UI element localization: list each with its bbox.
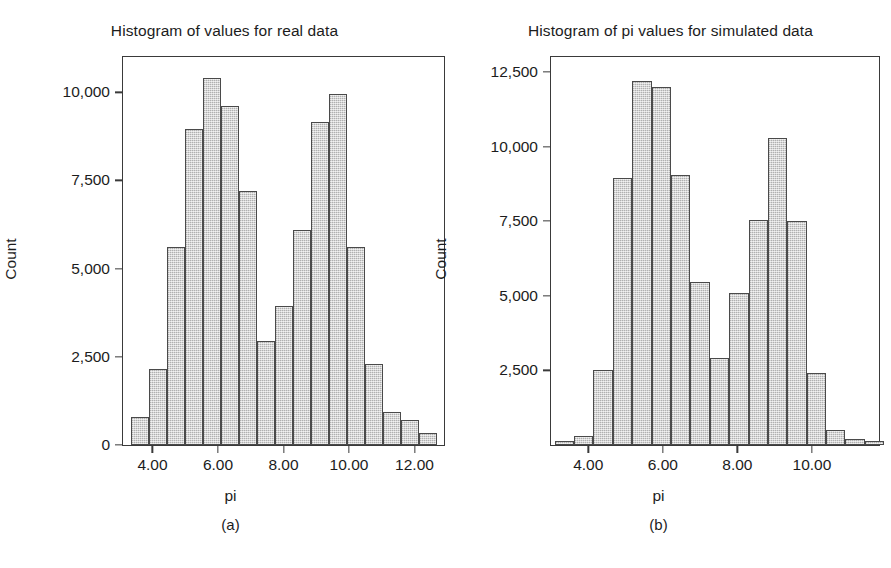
x-tick-mark [152, 445, 153, 453]
x-tick-label: 10.00 [330, 456, 369, 474]
y-axis-label-b: Count [432, 238, 450, 279]
histogram-bar [652, 87, 671, 445]
x-tick-label: 12.00 [395, 456, 434, 474]
figure-two-histograms: Histogram of values for real data Count … [0, 0, 891, 568]
y-tick-mark [115, 92, 122, 93]
y-tick-label: 2,500 [499, 361, 538, 379]
histogram-bars-b [551, 57, 879, 445]
histogram-bar [401, 420, 419, 445]
histogram-bar [826, 430, 845, 445]
x-tick-label: 6.00 [203, 456, 233, 474]
panel-caption-b: (b) [436, 516, 881, 533]
histogram-bar [185, 129, 203, 445]
panel-a: Histogram of values for real data Count … [0, 0, 445, 568]
histogram-bar [257, 341, 275, 445]
histogram-bar [768, 138, 787, 445]
plot-area-b [550, 56, 880, 446]
histogram-bar [807, 373, 826, 445]
y-tick-label: 5,000 [499, 287, 538, 305]
x-tick-mark [588, 445, 589, 453]
x-tick-mark [414, 445, 415, 453]
histogram-bar [690, 282, 709, 445]
y-axis-label-a: Count [2, 238, 20, 279]
chart-title-b: Histogram of pi values for simulated dat… [448, 22, 891, 40]
x-tick-label: 4.00 [573, 456, 603, 474]
histogram-bar [845, 439, 864, 445]
histogram-bar [293, 230, 311, 445]
y-tick-mark [115, 180, 122, 181]
y-tick-label: 2,500 [71, 348, 110, 366]
x-tick-mark [217, 445, 218, 453]
histogram-bars-a [123, 57, 444, 445]
histogram-bar [593, 370, 612, 445]
histogram-bar [865, 441, 884, 445]
x-tick-label: 8.00 [722, 456, 752, 474]
y-tick-mark [543, 370, 550, 371]
histogram-bar [239, 191, 257, 445]
histogram-bar [329, 94, 347, 445]
y-tick-mark [115, 356, 122, 357]
y-tick-label: 10,000 [63, 83, 110, 101]
y-tick-mark [115, 444, 122, 445]
x-axis-label-b: pi [436, 487, 881, 505]
y-tick-label: 7,500 [71, 171, 110, 189]
x-tick-mark [811, 445, 812, 453]
x-tick-mark [283, 445, 284, 453]
histogram-bar [311, 122, 329, 445]
histogram-bar [167, 247, 185, 445]
y-tick-mark [115, 268, 122, 269]
histogram-bar [729, 293, 748, 445]
histogram-bar [632, 81, 651, 445]
histogram-bar [419, 433, 437, 445]
x-tick-mark [348, 445, 349, 453]
x-tick-label: 6.00 [648, 456, 678, 474]
y-tick-label: 7,500 [499, 212, 538, 230]
x-tick-mark [737, 445, 738, 453]
y-tick-mark [543, 146, 550, 147]
histogram-bar [710, 358, 729, 445]
histogram-bar [365, 364, 383, 445]
chart-title-a: Histogram of values for real data [2, 22, 447, 40]
x-tick-label: 4.00 [137, 456, 167, 474]
y-tick-mark [543, 295, 550, 296]
panel-caption-a: (a) [8, 516, 453, 533]
panel-b: Histogram of pi values for simulated dat… [446, 0, 891, 568]
histogram-bar [275, 306, 293, 445]
histogram-bar [574, 436, 593, 445]
histogram-bar [383, 412, 401, 446]
histogram-bar [221, 106, 239, 445]
histogram-bar [149, 369, 167, 445]
histogram-bar [787, 221, 806, 445]
histogram-bar [749, 220, 768, 445]
histogram-bar [203, 78, 221, 445]
x-axis-label-a: pi [8, 487, 453, 505]
y-tick-label: 12,500 [491, 63, 538, 81]
y-tick-label: 0 [101, 436, 110, 454]
histogram-bar [347, 247, 365, 445]
x-tick-mark [662, 445, 663, 453]
y-tick-mark [543, 220, 550, 221]
histogram-bar [671, 175, 690, 445]
y-tick-label: 5,000 [71, 260, 110, 278]
histogram-bar [613, 178, 632, 445]
histogram-bar [131, 417, 149, 445]
y-tick-label: 10,000 [491, 138, 538, 156]
plot-area-a [122, 56, 445, 446]
y-tick-mark [543, 71, 550, 72]
histogram-bar [555, 441, 574, 445]
x-tick-label: 8.00 [268, 456, 298, 474]
x-tick-label: 10.00 [793, 456, 832, 474]
